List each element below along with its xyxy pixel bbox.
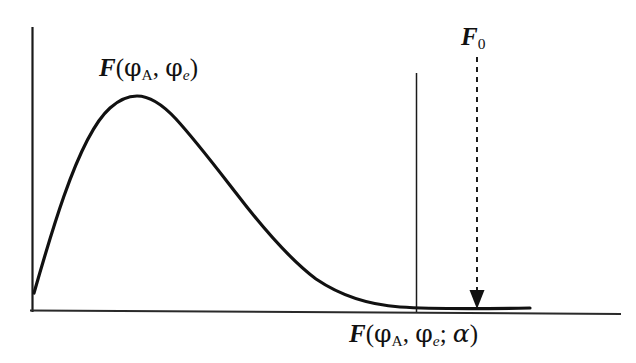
critical-label-comma: , <box>403 320 416 347</box>
critical-label-close-paren: ) <box>470 320 478 347</box>
critical-label-phi-2: φ <box>415 319 433 348</box>
f0-arrowhead-icon <box>470 290 485 309</box>
curve-label-phi-2: φ <box>165 53 183 82</box>
f0-label-func: F <box>461 23 478 50</box>
critical-label-alpha: α <box>453 319 470 348</box>
critical-label-subscript-1: A <box>392 332 403 349</box>
curve-label-phi-1: φ <box>124 53 142 82</box>
curve-label-subscript-1: A <box>142 66 153 83</box>
f-distribution-figure: F(φA, φe) F(φA, φe; α) F0 <box>0 0 636 363</box>
critical-label-subscript-2: e <box>433 332 440 349</box>
f0-label-subscript: 0 <box>478 35 486 52</box>
curve-label-open-paren: ( <box>116 54 124 81</box>
curve-label-comma: , <box>153 54 166 81</box>
curve-label-func: F <box>99 54 116 81</box>
critical-label-func: F <box>349 320 366 347</box>
critical-label-open-paren: ( <box>366 320 374 347</box>
critical-value-label: F(φA, φe; α) <box>349 321 478 349</box>
x-axis <box>31 311 620 315</box>
critical-label-phi-1: φ <box>374 319 392 348</box>
critical-label-semicolon: ; <box>440 320 453 347</box>
figure-canvas <box>0 0 636 363</box>
curve-label-close-paren: ) <box>190 54 198 81</box>
f-distribution-density-label: F(φA, φe) <box>99 55 198 83</box>
f-density-curve <box>34 96 530 309</box>
curve-label-subscript-2: e <box>183 66 190 83</box>
observed-f-statistic-label: F0 <box>461 24 485 52</box>
